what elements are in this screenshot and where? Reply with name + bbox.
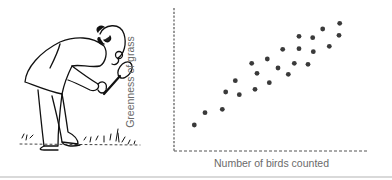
data-point: [320, 27, 325, 32]
scatter-chart: [150, 0, 392, 175]
data-point: [249, 61, 254, 66]
data-point: [192, 123, 197, 128]
data-point: [286, 72, 291, 77]
data-point: [310, 35, 315, 40]
data-point: [237, 92, 242, 97]
grass-icon: [22, 129, 135, 144]
data-point: [253, 87, 258, 92]
data-point: [276, 66, 281, 71]
data-point: [292, 61, 297, 66]
data-point: [327, 44, 332, 49]
data-point: [337, 33, 342, 38]
data-point: [280, 47, 285, 52]
data-point: [265, 57, 270, 62]
data-point: [233, 78, 238, 83]
data-point: [337, 21, 342, 26]
data-points: [192, 21, 342, 128]
data-point: [223, 90, 228, 95]
data-point: [311, 49, 316, 54]
x-axis-label: Number of birds counted: [174, 157, 369, 169]
divider: [0, 176, 392, 178]
data-point: [255, 71, 260, 76]
data-point: [267, 80, 272, 85]
data-point: [297, 46, 302, 51]
data-point: [220, 107, 225, 112]
data-point: [306, 62, 311, 67]
y-axis-label: Greenness of grass: [124, 32, 136, 132]
data-point: [297, 34, 302, 39]
data-point: [203, 110, 208, 115]
